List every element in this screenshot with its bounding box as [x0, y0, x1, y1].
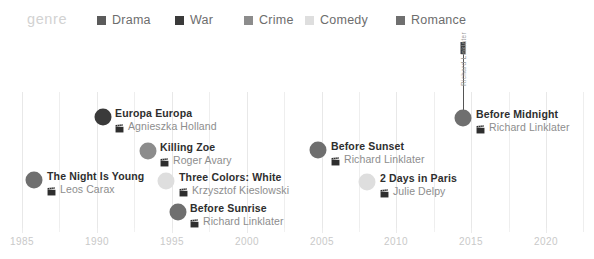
- data-point-title: The Night Is Young: [47, 170, 144, 182]
- axis-tick: [97, 228, 98, 233]
- data-point-director-row: Roger Avary: [160, 154, 232, 166]
- data-point-director: Roger Avary: [173, 154, 232, 166]
- gridline: [434, 92, 435, 232]
- legend-item-label: Romance: [411, 13, 466, 27]
- film-clapper-icon: [190, 217, 199, 226]
- data-point-director-row: Richard Linklater: [331, 153, 425, 165]
- data-point-director-row: Leos Carax: [47, 183, 144, 195]
- axis-tick: [322, 228, 323, 233]
- gridline: [471, 92, 472, 232]
- gridline: [22, 92, 23, 232]
- gridline: [59, 92, 60, 232]
- data-point-director: Richard Linklater: [489, 121, 570, 133]
- data-point-director-row: Richard Linklater: [476, 121, 570, 133]
- axis-tick-label: 2020: [534, 236, 558, 247]
- square-swatch: [305, 16, 314, 25]
- axis-tick: [396, 228, 397, 233]
- data-point-director-row: Julie Delpy: [380, 185, 457, 197]
- legend-item-crime[interactable]: Crime: [244, 10, 294, 30]
- data-point-director: Julie Delpy: [393, 185, 445, 197]
- axis-tick-minor: [134, 228, 135, 232]
- legend-item-label: War: [190, 13, 213, 27]
- axis-tick: [22, 228, 23, 233]
- genre-timeline-chart: genre DramaWarCrimeComedyRomance Richard…: [0, 0, 594, 259]
- plot-area: [0, 40, 594, 232]
- data-point-dot[interactable]: [26, 172, 43, 189]
- data-point-dot[interactable]: [310, 142, 327, 159]
- legend-item-war[interactable]: War: [175, 10, 213, 30]
- axis-tick-minor: [509, 228, 510, 232]
- legend-item-drama[interactable]: Drama: [97, 10, 151, 30]
- gridline: [583, 92, 584, 232]
- legend-item-romance[interactable]: Romance: [396, 10, 466, 30]
- data-point-label-group: Three Colors: WhiteKrzysztof Kieslowski: [179, 171, 289, 196]
- data-point-label-group: Europa EuropaAgnieszka Holland: [115, 107, 217, 132]
- square-swatch: [244, 16, 253, 25]
- square-swatch: [175, 16, 184, 25]
- data-point-dot[interactable]: [359, 174, 376, 191]
- data-point-director: Krzysztof Kieslowski: [192, 184, 289, 196]
- legend: genre DramaWarCrimeComedyRomance: [0, 10, 594, 32]
- data-point-label-group: Killing ZoeRoger Avary: [160, 141, 232, 166]
- film-clapper-icon: [160, 156, 169, 165]
- axis-tick-minor: [59, 228, 60, 232]
- axis-tick-minor: [209, 228, 210, 232]
- data-point-label-group: Before SunriseRichard Linklater: [190, 202, 284, 227]
- film-clapper-icon: [47, 185, 56, 194]
- square-swatch: [396, 16, 405, 25]
- axis-tick-label: 2010: [384, 236, 408, 247]
- data-point-label-group: Before MidnightRichard Linklater: [476, 108, 570, 133]
- data-point-director-row: Krzysztof Kieslowski: [179, 184, 289, 196]
- film-clapper-icon: [380, 187, 389, 196]
- data-point-title: Before Sunset: [331, 140, 425, 152]
- axis-tick: [247, 228, 248, 233]
- axis-tick-label: 2005: [310, 236, 334, 247]
- data-point-director: Richard Linklater: [203, 215, 284, 227]
- data-point-dot[interactable]: [140, 143, 157, 160]
- gridline: [322, 92, 323, 232]
- gridline: [284, 92, 285, 232]
- data-point-title: Before Sunrise: [190, 202, 284, 214]
- legend-title: genre: [27, 11, 67, 27]
- data-point-director-row: Agnieszka Holland: [115, 120, 217, 132]
- data-point-title: Three Colors: White: [179, 171, 289, 183]
- data-point-title: Killing Zoe: [160, 141, 232, 153]
- data-point-director: Richard Linklater: [344, 153, 425, 165]
- data-point-title: Europa Europa: [115, 107, 217, 119]
- data-point-title: 2 Days in Paris: [380, 172, 457, 184]
- axis-tick-label: 1985: [10, 236, 34, 247]
- axis-tick-label: 2000: [235, 236, 259, 247]
- legend-item-label: Crime: [259, 13, 294, 27]
- data-point-director: Agnieszka Holland: [128, 120, 217, 132]
- legend-item-label: Drama: [112, 13, 151, 27]
- data-point-dot[interactable]: [95, 109, 112, 126]
- data-point-label-group: Before SunsetRichard Linklater: [331, 140, 425, 165]
- axis-tick: [172, 228, 173, 233]
- data-point-label-group: The Night Is YoungLeos Carax: [47, 170, 144, 195]
- axis-tick-label: 2015: [459, 236, 483, 247]
- annotation-label: Richard Linklater: [460, 32, 467, 86]
- film-clapper-icon: [476, 123, 485, 132]
- square-swatch: [97, 16, 106, 25]
- film-clapper-icon: [331, 155, 340, 164]
- axis-tick-minor: [284, 228, 285, 232]
- data-point-dot[interactable]: [455, 110, 472, 127]
- data-point-director: Leos Carax: [60, 183, 115, 195]
- film-clapper-icon: [115, 122, 124, 131]
- legend-item-label: Comedy: [320, 13, 368, 27]
- axis-tick-minor: [434, 228, 435, 232]
- legend-item-comedy[interactable]: Comedy: [305, 10, 368, 30]
- axis-tick-label: 1990: [85, 236, 109, 247]
- axis-tick: [471, 228, 472, 233]
- data-point-label-group: 2 Days in ParisJulie Delpy: [380, 172, 457, 197]
- data-point-director-row: Richard Linklater: [190, 215, 284, 227]
- film-clapper-icon: [179, 186, 188, 195]
- axis-tick-label: 1995: [160, 236, 184, 247]
- x-axis: 19851990199520002005201020152020: [0, 228, 594, 252]
- data-point-dot[interactable]: [158, 173, 175, 190]
- axis-tick: [546, 228, 547, 233]
- axis-tick-minor: [359, 228, 360, 232]
- data-point-dot[interactable]: [170, 204, 187, 221]
- data-point-title: Before Midnight: [476, 108, 570, 120]
